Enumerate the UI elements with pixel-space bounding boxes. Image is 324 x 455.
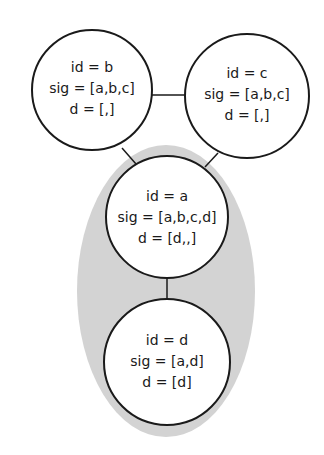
node-a: id = a sig = [a,b,c,d] d = [d,,] (106, 156, 228, 278)
node-d-id: id = d (146, 332, 188, 348)
node-a-d: d = [d,,] (138, 230, 196, 246)
node-b-d: d = [,] (70, 101, 115, 117)
node-b-sig: sig = [a,b,c] (49, 80, 135, 96)
node-c: id = c sig = [a,b,c] d = [,] (185, 34, 309, 158)
graph-diagram: id = b sig = [a,b,c] d = [,] id = c sig … (0, 0, 324, 455)
node-c-d: d = [,] (225, 107, 270, 123)
node-a-id: id = a (146, 188, 188, 204)
node-c-sig: sig = [a,b,c] (204, 86, 290, 102)
node-d-d: d = [d] (142, 374, 191, 390)
edge-c-a (205, 153, 218, 167)
node-c-id: id = c (226, 65, 267, 81)
node-b-id: id = b (71, 59, 113, 75)
node-b: id = b sig = [a,b,c] d = [,] (32, 30, 152, 150)
node-d-sig: sig = [a,d] (130, 353, 204, 369)
node-a-sig: sig = [a,b,c,d] (117, 209, 216, 225)
node-d: id = d sig = [a,d] d = [d] (104, 299, 230, 425)
